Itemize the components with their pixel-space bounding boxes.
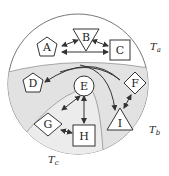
label-h: H [79, 130, 89, 143]
label-d: D [29, 77, 38, 90]
label-e: E [80, 80, 88, 93]
label-i: I [118, 117, 122, 130]
label-tc: Tc [48, 154, 59, 167]
label-ta: Ta [150, 41, 161, 54]
label-b: B [82, 31, 90, 44]
label-g: G [44, 118, 53, 131]
tree-diagram: A B C D E F G H I Ta Tb Tc [0, 0, 169, 176]
label-a: A [42, 41, 52, 54]
label-f: F [131, 77, 139, 90]
label-tb: Tb [149, 124, 161, 137]
label-c: C [116, 44, 124, 57]
